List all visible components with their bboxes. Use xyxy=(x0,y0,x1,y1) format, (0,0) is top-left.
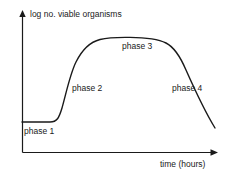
y-axis-label: log no. viable organisms xyxy=(30,10,122,19)
phase-2-label: phase 2 xyxy=(72,84,102,93)
x-axis-arrow-icon xyxy=(211,149,219,156)
growth-curve-figure: log no. viable organisms time (hours) ph… xyxy=(0,0,244,177)
phase-3-label: phase 3 xyxy=(122,42,152,51)
y-axis-arrow-icon xyxy=(19,10,25,17)
growth-curve-svg xyxy=(0,0,244,177)
phase-4-label: phase 4 xyxy=(172,84,202,93)
x-axis-label: time (hours) xyxy=(160,160,205,169)
phase-1-label: phase 1 xyxy=(24,127,54,136)
